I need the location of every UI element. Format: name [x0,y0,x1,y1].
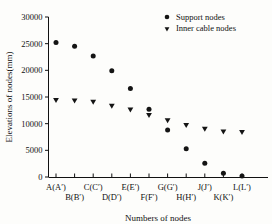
legend-marker-triangle-icon [165,27,170,31]
x-axis-category-label: L(L′) [233,182,251,192]
data-point-support-node [165,128,170,133]
y-tick-label: 30000 [21,12,42,22]
x-axis-category-label: D(D′) [102,192,122,202]
data-point-support-node [109,68,114,73]
y-tick-label: 10000 [21,119,42,129]
data-point-inner-cable-node [183,123,189,128]
x-axis-category-label: K(K′) [213,192,233,202]
y-axis-tick-labels: 050001000015000200002500030000 [21,12,42,182]
x-axis-labels-bottom-row: B(B′)D(D′)F(F′)H(H′)K(K′) [65,192,233,202]
data-point-inner-cable-node [239,130,245,135]
y-tick-label: 15000 [21,92,42,102]
data-point-support-node [91,53,96,58]
y-axis-title: Elevations of nodes(mm) [4,52,14,143]
data-point-support-node [240,173,245,178]
x-axis-category-label: B(B′) [65,192,84,202]
legend-label-inner-cable-nodes: Inner cable nodes [176,23,236,33]
data-point-inner-cable-node [221,129,227,134]
data-point-inner-cable-node [165,118,171,123]
data-point-support-node [72,44,77,49]
x-axis-category-label: A(A′) [46,182,66,192]
x-axis-category-label: J(J′) [198,182,212,192]
x-axis-category-label: F(F′) [141,192,158,202]
series-support-nodes [54,40,245,178]
scatter-chart: 050001000015000200002500030000 Elevation… [0,0,272,224]
chart-container: 050001000015000200002500030000 Elevation… [0,0,272,224]
data-point-inner-cable-node [90,100,96,105]
data-point-inner-cable-node [146,113,152,118]
data-point-support-node [184,146,189,151]
data-point-support-node [202,161,207,166]
x-axis-category-label: G(G′) [158,182,178,192]
y-tick-label: 5000 [26,145,43,155]
data-point-inner-cable-node [109,104,115,109]
data-point-support-node [147,107,152,112]
y-axis-ticks [45,17,49,177]
data-point-inner-cable-node [202,127,208,132]
x-axis-title: Numbers of nodes [125,213,191,223]
x-axis-category-label: H(H′) [176,192,196,202]
legend-marker-circle-icon [165,15,170,20]
x-axis-labels-top-row: A(A′)C(C′)E(E′)G(G′)J(J′)L(L′) [46,182,251,192]
series-inner-cable-nodes [53,98,245,135]
legend-label-support-nodes: Support nodes [176,12,225,22]
x-axis-ticks [56,174,242,178]
x-axis-category-label: E(E′) [121,182,139,192]
data-point-inner-cable-node [128,108,134,113]
data-point-inner-cable-node [72,99,78,104]
chart-legend: Support nodes Inner cable nodes [165,12,236,33]
y-tick-label: 20000 [21,65,42,75]
x-axis-category-label: C(C′) [84,182,103,192]
data-point-support-node [54,40,59,45]
y-tick-label: 25000 [21,39,42,49]
y-tick-label: 0 [38,172,42,182]
data-point-support-node [221,171,226,176]
data-point-inner-cable-node [53,98,59,103]
data-point-support-node [128,86,133,91]
